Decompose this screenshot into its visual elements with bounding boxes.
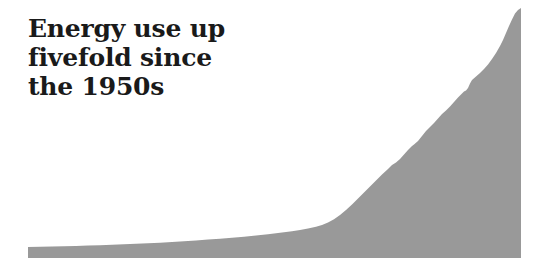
headline-line-1: Energy use up [28, 14, 328, 43]
headline-line-2: fivefold since [28, 43, 328, 72]
headline-line-3: the 1950s [28, 72, 328, 101]
page-title: Energy use up fivefold since the 1950s [28, 14, 328, 101]
chart-figure: Energy use up fivefold since the 1950s [0, 0, 558, 266]
